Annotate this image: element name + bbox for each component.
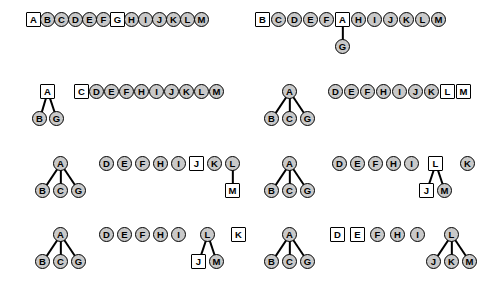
circle-node-H[interactable]: H: [153, 227, 168, 242]
circle-node-D[interactable]: D: [99, 156, 114, 171]
circle-node-C[interactable]: C: [54, 12, 69, 27]
circle-node-L[interactable]: L: [180, 12, 195, 27]
circle-node-K[interactable]: K: [207, 156, 222, 171]
circle-node-B[interactable]: B: [35, 183, 50, 198]
circle-node-C[interactable]: C: [271, 12, 286, 27]
circle-node-B[interactable]: B: [264, 111, 279, 126]
circle-node-C[interactable]: C: [53, 183, 68, 198]
circle-node-K[interactable]: K: [166, 12, 181, 27]
circle-node-M[interactable]: M: [209, 254, 224, 269]
circle-node-B[interactable]: B: [264, 254, 279, 269]
circle-node-G[interactable]: G: [71, 183, 86, 198]
circle-node-C[interactable]: C: [282, 183, 297, 198]
circle-node-I[interactable]: I: [171, 156, 186, 171]
square-node-L[interactable]: L: [428, 156, 443, 171]
square-node-A[interactable]: A: [335, 12, 350, 27]
circle-node-I[interactable]: I: [367, 12, 382, 27]
circle-node-J[interactable]: J: [426, 254, 441, 269]
circle-node-K[interactable]: K: [424, 84, 439, 99]
circle-node-C[interactable]: C: [282, 254, 297, 269]
circle-node-C[interactable]: C: [53, 254, 68, 269]
circle-node-E[interactable]: E: [104, 84, 119, 99]
circle-node-E[interactable]: E: [303, 12, 318, 27]
circle-node-A[interactable]: A: [282, 84, 297, 99]
circle-node-M[interactable]: M: [431, 12, 446, 27]
circle-node-I[interactable]: I: [149, 84, 164, 99]
circle-node-F[interactable]: F: [96, 12, 111, 27]
circle-node-F[interactable]: F: [319, 12, 334, 27]
circle-node-K[interactable]: K: [399, 12, 414, 27]
square-node-C[interactable]: C: [74, 84, 89, 99]
circle-node-H[interactable]: H: [386, 156, 401, 171]
circle-node-C[interactable]: C: [282, 111, 297, 126]
circle-node-B[interactable]: B: [264, 183, 279, 198]
circle-node-E[interactable]: E: [344, 84, 359, 99]
circle-node-M[interactable]: M: [194, 12, 209, 27]
circle-node-B[interactable]: B: [35, 254, 50, 269]
circle-node-F[interactable]: F: [370, 227, 385, 242]
circle-node-F[interactable]: F: [135, 227, 150, 242]
square-node-E[interactable]: E: [350, 227, 365, 242]
square-node-M[interactable]: M: [225, 183, 240, 198]
circle-node-G[interactable]: G: [300, 111, 315, 126]
circle-node-J[interactable]: J: [383, 12, 398, 27]
circle-node-L[interactable]: L: [444, 227, 459, 242]
circle-node-D[interactable]: D: [99, 227, 114, 242]
circle-node-D[interactable]: D: [332, 156, 347, 171]
circle-node-L[interactable]: L: [194, 84, 209, 99]
square-node-D[interactable]: D: [330, 227, 345, 242]
circle-node-H[interactable]: H: [351, 12, 366, 27]
circle-node-M[interactable]: M: [462, 254, 477, 269]
circle-node-K[interactable]: K: [444, 254, 459, 269]
circle-node-A[interactable]: A: [282, 156, 297, 171]
circle-node-F[interactable]: F: [119, 84, 134, 99]
square-node-J[interactable]: J: [189, 156, 204, 171]
circle-node-J[interactable]: J: [152, 12, 167, 27]
square-node-G[interactable]: G: [110, 12, 125, 27]
circle-node-H[interactable]: H: [390, 227, 405, 242]
circle-node-H[interactable]: H: [153, 156, 168, 171]
circle-node-G[interactable]: G: [300, 183, 315, 198]
circle-node-D[interactable]: D: [89, 84, 104, 99]
circle-node-G[interactable]: G: [300, 254, 315, 269]
circle-node-A[interactable]: A: [53, 227, 68, 242]
circle-node-J[interactable]: J: [408, 84, 423, 99]
circle-node-F[interactable]: F: [368, 156, 383, 171]
square-node-J[interactable]: J: [191, 254, 206, 269]
circle-node-A[interactable]: A: [53, 156, 68, 171]
circle-node-I[interactable]: I: [171, 227, 186, 242]
circle-node-D[interactable]: D: [68, 12, 83, 27]
square-node-L[interactable]: L: [440, 84, 455, 99]
circle-node-E[interactable]: E: [82, 12, 97, 27]
circle-node-M[interactable]: M: [437, 183, 452, 198]
circle-node-M[interactable]: M: [209, 84, 224, 99]
square-node-B[interactable]: B: [255, 12, 270, 27]
circle-node-A[interactable]: A: [282, 227, 297, 242]
circle-node-K[interactable]: K: [460, 156, 475, 171]
circle-node-L[interactable]: L: [225, 156, 240, 171]
circle-node-E[interactable]: E: [117, 227, 132, 242]
circle-node-E[interactable]: E: [350, 156, 365, 171]
circle-node-H[interactable]: H: [134, 84, 149, 99]
circle-node-F[interactable]: F: [360, 84, 375, 99]
circle-node-F[interactable]: F: [135, 156, 150, 171]
circle-node-I[interactable]: I: [392, 84, 407, 99]
circle-node-G[interactable]: G: [71, 254, 86, 269]
circle-node-L[interactable]: L: [200, 227, 215, 242]
circle-node-J[interactable]: J: [164, 84, 179, 99]
circle-node-I[interactable]: I: [404, 156, 419, 171]
circle-node-G[interactable]: G: [49, 111, 64, 126]
square-node-K[interactable]: K: [231, 227, 246, 242]
circle-node-H[interactable]: H: [376, 84, 391, 99]
circle-node-L[interactable]: L: [415, 12, 430, 27]
circle-node-G[interactable]: G: [335, 39, 350, 54]
square-node-A[interactable]: A: [40, 84, 55, 99]
circle-node-K[interactable]: K: [179, 84, 194, 99]
circle-node-D[interactable]: D: [328, 84, 343, 99]
circle-node-H[interactable]: H: [124, 12, 139, 27]
circle-node-I[interactable]: I: [138, 12, 153, 27]
square-node-M[interactable]: M: [456, 84, 471, 99]
circle-node-E[interactable]: E: [117, 156, 132, 171]
circle-node-B[interactable]: B: [40, 12, 55, 27]
circle-node-I[interactable]: I: [410, 227, 425, 242]
